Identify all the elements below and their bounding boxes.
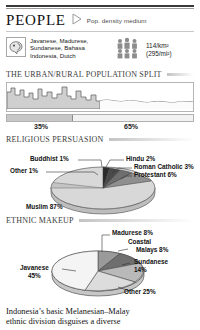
rural-percentage-label: 65%	[124, 123, 138, 130]
people-infographic-page: PEOPLE Pop. density medium Javanese, Mad…	[0, 5, 200, 330]
facts-row: Javanese, Madurese, Sundanese, Bahasa In…	[6, 37, 194, 63]
triangle-right-icon	[72, 11, 82, 29]
ethnic-label-other: Other 25%	[124, 288, 156, 296]
page-title: PEOPLE	[6, 12, 72, 29]
religion-label-protestant: Protestant 6%	[134, 171, 177, 179]
religion-label-buddhist: Buddhist 1%	[30, 155, 69, 163]
ethnic-label-coastal-malays: Malays 8%	[136, 246, 168, 254]
ethnic-heading-row: ETHNIC MAKEUP	[6, 216, 194, 225]
religion-label-other: Other 1%	[10, 167, 38, 175]
urban-rural-heading: THE URBAN/RURAL POPULATION SPLIT	[6, 70, 162, 79]
density-tag-label: Pop. density medium	[87, 17, 147, 24]
languages-fact: Javanese, Madurese, Sundanese, Bahasa In…	[6, 37, 110, 61]
urban-rural-heading-row: THE URBAN/RURAL POPULATION SPLIT	[6, 70, 194, 79]
density-metric: 114/km²	[146, 42, 172, 50]
urban-rural-labels: 35% 65%	[6, 122, 194, 133]
religion-pie-chart: Buddhist 1% Hindu 2% Roman Catholic 3% P…	[6, 144, 194, 216]
ethnic-label-javanese-value: 45%	[28, 272, 41, 280]
urban-rural-bar	[6, 114, 194, 122]
density-imperial: (295/mi²)	[146, 50, 172, 58]
ethnic-label-coastal: Coastal	[128, 238, 151, 246]
heading-rule	[167, 73, 194, 76]
ethnic-label-madurese: Madurese 8%	[112, 229, 153, 237]
header-row: PEOPLE Pop. density medium	[6, 9, 194, 31]
ethnic-label-sundanese: Sundanese	[134, 258, 168, 266]
closing-line-1: Indonesia’s basic Melanesian–Malay	[6, 307, 194, 317]
urban-rural-illustration	[6, 82, 194, 112]
language-face-icon	[6, 37, 26, 61]
population-density-icon	[116, 37, 142, 63]
density-fact: 114/km² (295/mi²)	[110, 37, 194, 63]
ethnic-pie-chart: Madurese 8% Coastal Malays 8% Sundanese …	[6, 225, 194, 303]
religion-heading-row: RELIGIOUS PERSUASION	[6, 135, 194, 144]
religion-heading: RELIGIOUS PERSUASION	[6, 135, 104, 144]
closing-paragraph: Indonesia’s basic Melanesian–Malay ethni…	[6, 307, 194, 328]
urban-bar-segment	[7, 115, 73, 121]
religion-label-hindu: Hindu 2%	[126, 155, 155, 163]
urban-percentage-label: 35%	[34, 123, 48, 130]
heading-rule	[109, 138, 194, 141]
header-rule-top	[6, 5, 194, 7]
rural-bar-segment	[73, 115, 193, 121]
ethnic-label-coastal-line1: Coastal	[128, 238, 151, 245]
ethnic-label-javanese: Javanese	[20, 264, 49, 272]
languages-text: Javanese, Madurese, Sundanese, Bahasa In…	[30, 37, 110, 59]
density-values: 114/km² (295/mi²)	[146, 37, 172, 58]
ethnic-heading: ETHNIC MAKEUP	[6, 216, 74, 225]
religion-label-muslim: Muslim 87%	[26, 203, 63, 211]
heading-rule	[79, 219, 194, 222]
closing-line-2: ethnic division disguises a diverse	[6, 317, 194, 327]
header-rule-bottom	[6, 31, 194, 32]
ethnic-label-sundanese-value: 14%	[134, 266, 147, 274]
religion-label-catholic: Roman Catholic 3%	[134, 163, 194, 171]
